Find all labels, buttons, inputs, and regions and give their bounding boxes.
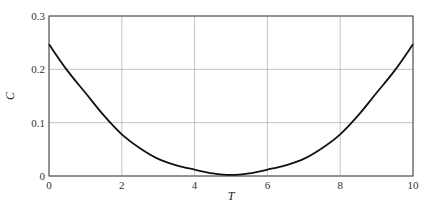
grid-lines — [49, 16, 413, 176]
y-tick-label: 0.2 — [31, 63, 45, 75]
y-axis-ticks: 00.10.20.3 — [31, 10, 45, 182]
x-tick-label: 8 — [337, 179, 343, 191]
y-tick-label: 0.3 — [31, 10, 45, 22]
line-chart: 00.10.20.3 0246810 T C — [0, 0, 433, 213]
x-tick-label: 2 — [119, 179, 125, 191]
y-tick-label: 0.1 — [31, 117, 45, 129]
x-tick-label: 10 — [408, 179, 420, 191]
plot-frame — [49, 16, 413, 176]
x-axis-label: T — [228, 189, 236, 203]
y-axis-label: C — [3, 91, 17, 100]
x-tick-label: 0 — [46, 179, 52, 191]
data-curve — [49, 44, 413, 175]
x-tick-label: 6 — [265, 179, 271, 191]
y-tick-label: 0 — [40, 170, 46, 182]
x-tick-label: 4 — [192, 179, 198, 191]
